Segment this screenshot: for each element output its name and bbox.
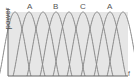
bell-curves-plot [0,0,134,81]
x-axis-label: f [128,70,130,77]
channel-label-b: B [53,2,58,11]
channel-label-a2: A [107,2,112,11]
channel-label-c: C [80,2,86,11]
y-axis-label: power [3,6,12,32]
channel-label-a1: A [27,2,32,11]
channel-power-diagram: power f A B C A [0,0,134,81]
